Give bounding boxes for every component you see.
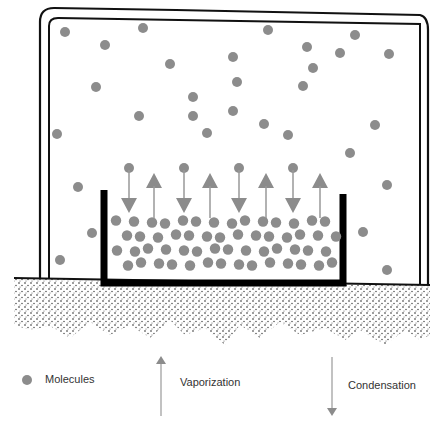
gas-molecule: [370, 120, 380, 130]
ground: [14, 278, 430, 345]
liquid-molecule: [271, 217, 281, 227]
liquid-molecule: [223, 244, 233, 254]
liquid-molecule: [129, 216, 139, 226]
liquid-molecule: [289, 218, 299, 228]
legend-molecule-icon: [22, 375, 32, 385]
liquid-molecule: [191, 216, 201, 226]
legend-molecules-label: Molecules: [45, 373, 95, 385]
liquid-molecule: [247, 260, 257, 270]
liquid-molecule: [135, 231, 145, 241]
liquid-molecule: [209, 217, 219, 227]
gas-molecule: [308, 63, 318, 73]
gas-molecule: [134, 111, 144, 121]
liquid-molecule: [227, 218, 237, 228]
liquid-molecule: [203, 257, 213, 267]
liquid-molecule: [240, 215, 250, 225]
liquid-molecule: [303, 245, 313, 255]
condensation-arrow-icon: [231, 163, 247, 213]
legend-condensation-label: Condensation: [348, 379, 416, 391]
liquid-molecule: [264, 231, 274, 241]
gas-molecule: [228, 52, 238, 62]
liquid-molecule: [143, 243, 153, 253]
liquid-molecule: [234, 259, 244, 269]
gas-molecule: [350, 30, 360, 40]
gas-molecule: [335, 48, 345, 58]
liquid-molecule: [307, 215, 317, 225]
liquid-molecule: [290, 244, 300, 254]
liquid-molecule: [153, 232, 163, 242]
liquid-molecule: [314, 260, 324, 270]
liquid-molecule: [154, 258, 164, 268]
liquid-molecule: [295, 229, 305, 239]
gas-molecule: [202, 128, 212, 138]
liquid-molecule: [192, 246, 202, 256]
liquid-molecule: [265, 257, 275, 267]
legend-vaporization-arrow-icon: [156, 356, 166, 364]
liquid-molecule: [313, 230, 323, 240]
gas-molecule: [298, 81, 308, 91]
vaporization-arrow-icon: [312, 173, 328, 218]
liquid-molecule: [321, 246, 331, 256]
liquid-molecule: [331, 231, 341, 241]
gas-molecule: [188, 92, 198, 102]
liquid-molecule: [161, 244, 171, 254]
liquid-molecule: [216, 258, 226, 268]
liquid-molecule: [171, 229, 181, 239]
liquid-molecule: [136, 257, 146, 267]
vaporization-arrow-icon: [202, 173, 218, 218]
gas-molecule: [384, 49, 394, 59]
liquid-molecule: [111, 215, 121, 225]
condensation-arrow-icon: [176, 163, 192, 213]
liquid-molecule: [130, 246, 140, 256]
gas-molecule: [60, 27, 70, 37]
gas-molecule: [358, 227, 368, 237]
liquid-molecule: [123, 260, 133, 270]
condensation-arrow-icon: [285, 163, 301, 213]
gas-molecule: [382, 265, 392, 275]
gas-molecule: [188, 111, 198, 121]
gas-molecule: [55, 255, 65, 265]
liquid-molecule: [202, 231, 212, 241]
liquid-molecule: [147, 217, 157, 227]
gas-molecule: [232, 77, 242, 87]
diagram-canvas: [0, 0, 444, 429]
gas-molecule: [165, 59, 175, 69]
liquid-molecule: [296, 259, 306, 269]
liquid-molecule: [327, 257, 337, 267]
gas-molecule: [382, 180, 392, 190]
gas-molecule: [259, 119, 269, 129]
liquid-molecule: [282, 232, 292, 242]
liquid-molecule: [112, 245, 122, 255]
legend-condensation-arrow-icon: [327, 408, 337, 416]
gas-molecule: [228, 106, 238, 116]
gas-molecule: [52, 129, 62, 139]
container-outer-wall: [40, 8, 428, 285]
gas-molecule: [138, 23, 148, 33]
condensation-arrow-icon: [121, 163, 137, 213]
liquid-molecule: [215, 232, 225, 242]
gas-molecule: [100, 40, 110, 50]
liquid-molecule: [320, 216, 330, 226]
liquid-molecule: [178, 215, 188, 225]
gas-molecule: [91, 82, 101, 92]
gas-molecule: [302, 42, 312, 52]
gas-molecule: [263, 25, 273, 35]
liquid-molecule: [167, 259, 177, 269]
gas-molecule: [73, 182, 83, 192]
vaporization-arrow-icon: [146, 173, 162, 218]
liquid-molecule: [122, 230, 132, 240]
liquid-molecule: [251, 230, 261, 240]
liquid-molecule: [185, 260, 195, 270]
legend-vaporization-label: Vaporization: [180, 376, 240, 388]
liquid-molecule: [160, 218, 170, 228]
liquid-molecule: [179, 245, 189, 255]
liquid-molecule: [283, 258, 293, 268]
gas-molecule: [87, 228, 97, 238]
liquid-molecule: [210, 243, 220, 253]
gas-molecule: [283, 130, 293, 140]
liquid-molecule: [184, 230, 194, 240]
liquid-molecule: [233, 229, 243, 239]
vaporization-arrow-icon: [258, 173, 274, 218]
liquid-molecule: [259, 246, 269, 256]
liquid-molecule: [241, 245, 251, 255]
